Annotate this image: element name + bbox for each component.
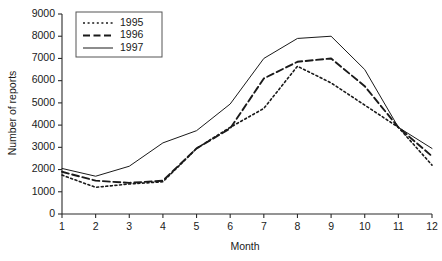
y-tick-label: 3000 bbox=[32, 140, 56, 152]
y-tick-label: 7000 bbox=[32, 51, 56, 63]
legend-box bbox=[76, 12, 162, 57]
y-tick-label: 2000 bbox=[32, 162, 56, 174]
y-tick-label: 9000 bbox=[32, 7, 56, 19]
x-tick-label: 9 bbox=[328, 220, 334, 232]
x-tick-label: 1 bbox=[59, 220, 65, 232]
x-tick-label: 7 bbox=[261, 220, 267, 232]
legend-label-1996: 1996 bbox=[120, 28, 144, 40]
chart-figure: 0100020003000400050006000700080009000 12… bbox=[0, 0, 442, 261]
legend-label-1997: 1997 bbox=[120, 41, 144, 53]
y-tick-label: 8000 bbox=[32, 29, 56, 41]
x-tick-label: 5 bbox=[194, 220, 200, 232]
x-tick-label: 8 bbox=[295, 220, 301, 232]
x-tick-label: 10 bbox=[359, 220, 371, 232]
y-tick-label: 5000 bbox=[32, 96, 56, 108]
x-tick-label: 6 bbox=[227, 220, 233, 232]
y-tick-label: 4000 bbox=[32, 118, 56, 130]
y-tick-label: 1000 bbox=[32, 185, 56, 197]
x-tick-label: 4 bbox=[160, 220, 166, 232]
y-tick-label: 0 bbox=[49, 207, 55, 219]
x-tick-label: 3 bbox=[126, 220, 132, 232]
chart-background bbox=[0, 0, 442, 261]
x-axis-title: Month bbox=[230, 240, 259, 252]
x-tick-label: 12 bbox=[426, 220, 438, 232]
line-chart: 0100020003000400050006000700080009000 12… bbox=[0, 0, 442, 261]
chart-legend: 199519961997 bbox=[76, 12, 162, 57]
x-tick-label: 2 bbox=[93, 220, 99, 232]
y-tick-label: 6000 bbox=[32, 73, 56, 85]
legend-label-1995: 1995 bbox=[120, 16, 144, 28]
y-axis-title: Number of reports bbox=[6, 71, 18, 156]
x-tick-label: 11 bbox=[393, 220, 404, 232]
